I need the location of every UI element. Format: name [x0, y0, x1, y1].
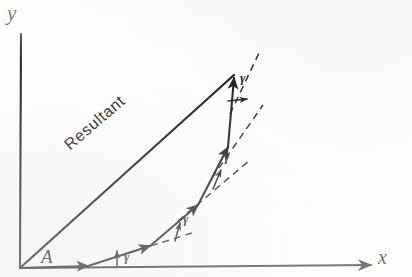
angle-label-gamma-2: γ	[183, 212, 188, 225]
angle-label-gamma-1: γ	[124, 250, 129, 263]
angle-tick-4	[228, 99, 247, 101]
component-vector-3	[150, 205, 198, 246]
angle-tick-marks	[117, 99, 247, 266]
origin-point-label: A	[41, 247, 53, 266]
x-axis-label: x	[378, 247, 387, 267]
y-axis-label: y	[7, 3, 16, 24]
component-vector-2	[88, 246, 150, 266]
angle-label-gamma-3: γ	[224, 150, 229, 163]
dashed-extension-3	[212, 105, 263, 178]
figure-canvas: y x A Resultant γ γ γ γ	[0, 0, 412, 277]
component-vector-5	[228, 78, 234, 147]
angle-label-gamma-4: γ	[240, 71, 245, 84]
y-axis-line	[20, 34, 21, 268]
